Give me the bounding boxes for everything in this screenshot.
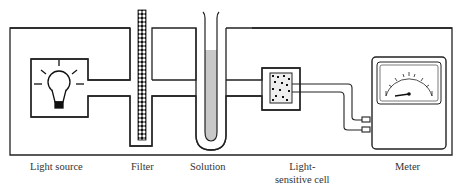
label-cell: Light- sensitive cell bbox=[275, 160, 330, 186]
light-bulb-icon bbox=[34, 60, 84, 108]
label-cell-line2: sensitive cell bbox=[275, 173, 330, 186]
filter-strip bbox=[138, 10, 146, 140]
photocell-icon bbox=[270, 73, 292, 103]
label-filter: Filter bbox=[131, 160, 154, 173]
test-tube-icon bbox=[196, 12, 226, 150]
housing-left bbox=[10, 28, 300, 150]
label-cell-line1: Light- bbox=[275, 160, 330, 173]
meter-gauge-icon bbox=[372, 57, 446, 149]
label-light-source: Light source bbox=[30, 160, 83, 173]
wires bbox=[292, 84, 370, 132]
label-solution: Solution bbox=[190, 160, 226, 173]
label-meter: Meter bbox=[395, 160, 420, 173]
